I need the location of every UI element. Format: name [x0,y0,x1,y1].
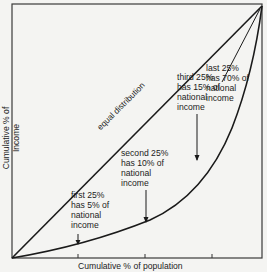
second-quarter-arrow [144,190,149,223]
lorenz-curve-diagram [0,0,267,272]
second-quarter-annotation: second 25% has 10% of national income [121,148,168,188]
last-quarter-annotation: last 25% has 70% of national income [206,63,249,103]
equal-distribution-line [12,6,262,258]
x-axis-label: Cumulative % of population [78,261,183,271]
third-quarter-arrow [195,114,200,161]
first-quarter-annotation: first 25% has 5% of national income [71,190,109,230]
y-axis-label: Cumulative % of Income [1,93,21,183]
